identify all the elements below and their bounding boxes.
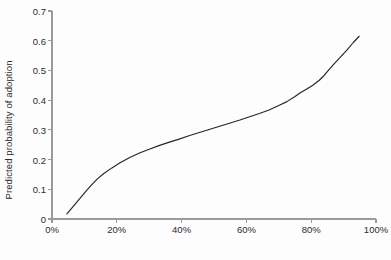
axis-spines [52,11,376,219]
chart-figure: Predicted probability of adoption 00.10.… [0,0,391,260]
plot-area [0,0,391,260]
x-axis-tick-marks [52,219,376,223]
data-line-predicted-probability [67,36,359,214]
